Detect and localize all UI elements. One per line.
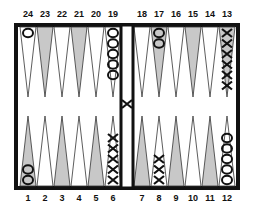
backgammon-board (0, 0, 253, 211)
